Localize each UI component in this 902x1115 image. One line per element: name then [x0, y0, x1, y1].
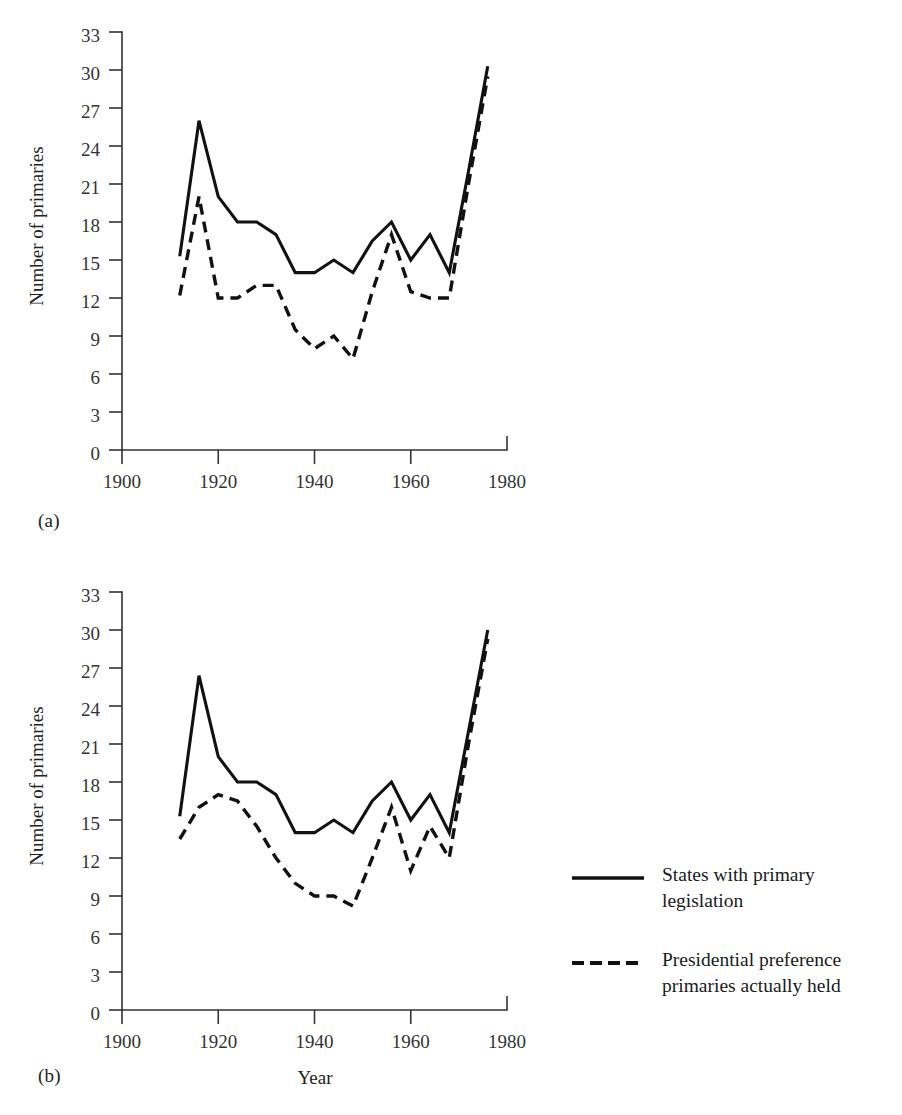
x-tick-label-1900: 1900	[103, 471, 141, 492]
panel-a-y-axis-label: Number of primaries	[26, 126, 48, 326]
y-tick-label-0: 0	[91, 1003, 101, 1024]
panel-b-x-axis-label: Year	[120, 1067, 510, 1089]
y-tick-label-30: 30	[81, 623, 100, 644]
y-tick-label-24: 24	[81, 699, 101, 720]
y-tick-label-9: 9	[91, 889, 101, 910]
y-tick-label-3: 3	[91, 405, 101, 426]
y-tick-label-27: 27	[81, 661, 100, 682]
y-tick-label-33: 33	[81, 585, 100, 606]
y-tick-label-9: 9	[91, 329, 101, 350]
legend-solid-line-swatch	[570, 867, 646, 889]
y-tick-label-15: 15	[81, 253, 100, 274]
panel-b-y-axis-label: Number of primaries	[26, 686, 48, 886]
legend-dashed-label-line1: Presidential preference	[662, 947, 841, 973]
x-tick-label-1940: 1940	[296, 1031, 334, 1052]
series-dashed	[180, 76, 488, 358]
x-tick-label-1980: 1980	[488, 471, 526, 492]
legend-solid-label: States with primary legislation	[662, 862, 815, 913]
x-tick-label-1980: 1980	[488, 1031, 526, 1052]
legend-dashed-line-swatch	[570, 952, 646, 974]
x-tick-label-1920: 1920	[199, 471, 237, 492]
legend-dashed-label: Presidential preference primaries actual…	[662, 947, 841, 998]
series-solid	[180, 630, 488, 833]
legend-dashed-label-line2: primaries actually held	[662, 973, 841, 999]
x-tick-label-1960: 1960	[392, 1031, 430, 1052]
y-tick-label-21: 21	[81, 177, 100, 198]
legend-item-solid: States with primary legislation	[570, 862, 900, 913]
figure-primaries: Number of primaries (a) 0369121518212427…	[0, 0, 902, 1115]
series-dashed	[180, 639, 488, 906]
legend-solid-label-line2: legislation	[662, 888, 815, 914]
series-solid	[180, 66, 488, 272]
y-tick-label-21: 21	[81, 737, 100, 758]
x-tick-label-1900: 1900	[103, 1031, 141, 1052]
y-tick-label-24: 24	[81, 139, 101, 160]
legend-item-dashed: Presidential preference primaries actual…	[570, 947, 900, 998]
legend-solid-label-line1: States with primary	[662, 862, 815, 888]
y-tick-label-18: 18	[81, 215, 100, 236]
y-tick-label-30: 30	[81, 63, 100, 84]
y-tick-label-33: 33	[81, 25, 100, 46]
y-tick-label-6: 6	[91, 367, 101, 388]
y-tick-label-12: 12	[81, 291, 100, 312]
y-tick-label-18: 18	[81, 775, 100, 796]
y-tick-label-15: 15	[81, 813, 100, 834]
panel-a-plot: 0369121518212427303319001920194019601980	[0, 10, 560, 510]
chart-panel-a: Number of primaries (a) 0369121518212427…	[0, 10, 560, 555]
y-tick-label-3: 3	[91, 965, 101, 986]
panel-b-label: (b)	[38, 1065, 61, 1087]
y-tick-label-6: 6	[91, 927, 101, 948]
chart-legend: States with primary legislation Presiden…	[570, 862, 900, 1033]
y-tick-label-0: 0	[91, 443, 101, 464]
x-tick-label-1920: 1920	[199, 1031, 237, 1052]
panel-b-plot: 0369121518212427303319001920194019601980	[0, 570, 560, 1070]
chart-panel-b: Number of primaries (b) Year 03691215182…	[0, 570, 560, 1115]
x-tick-label-1960: 1960	[392, 471, 430, 492]
y-tick-label-27: 27	[81, 101, 100, 122]
x-tick-label-1940: 1940	[296, 471, 334, 492]
y-tick-label-12: 12	[81, 851, 100, 872]
panel-a-label: (a)	[38, 510, 60, 532]
